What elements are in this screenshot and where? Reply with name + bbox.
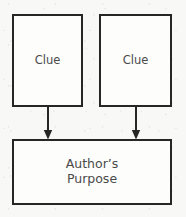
node-clue-right: Clue	[99, 14, 172, 107]
author-purpose-diagram: Clue Clue Author’s Purpose	[0, 0, 186, 217]
node-authors-purpose-label: Author’s Purpose	[66, 157, 119, 187]
arrow-clue-left-to-purpose-icon	[38, 105, 58, 141]
node-authors-purpose: Author’s Purpose	[12, 139, 172, 205]
node-clue-left: Clue	[12, 14, 83, 107]
node-clue-left-label: Clue	[35, 54, 61, 68]
node-clue-right-label: Clue	[123, 54, 149, 68]
arrow-clue-right-to-purpose-icon	[126, 105, 146, 141]
